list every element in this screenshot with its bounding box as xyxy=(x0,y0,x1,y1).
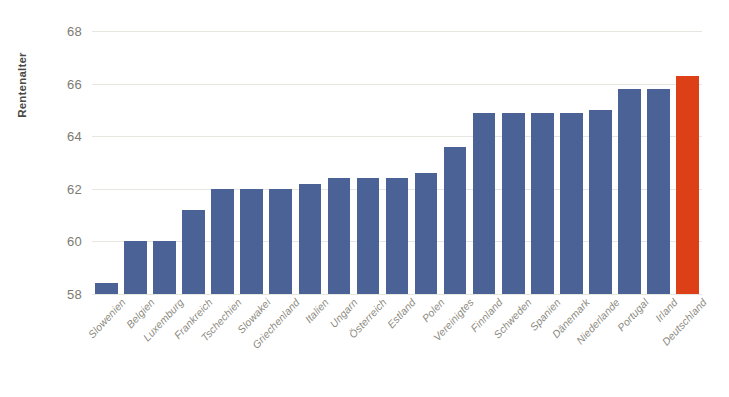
bar--sterreich[interactable] xyxy=(357,178,380,294)
bar-estland[interactable] xyxy=(386,178,409,294)
bar-ungarn[interactable] xyxy=(328,178,351,294)
bar-niederlande[interactable] xyxy=(589,110,612,294)
x-axis-category-labels: SlowenienBelgienLuxemburgFrankreichTsche… xyxy=(92,296,702,396)
rentenalter-bar-chart: Rentenalter 586062646668 SlowenienBelgie… xyxy=(0,0,729,397)
x-label-estland: Estland xyxy=(385,296,418,330)
bar-slowakei[interactable] xyxy=(240,189,263,294)
bar-finnland[interactable] xyxy=(473,113,496,294)
bars-layer xyxy=(92,31,702,294)
y-tick-label: 64 xyxy=(67,129,82,144)
bar-irland[interactable] xyxy=(647,89,670,294)
y-tick-label: 66 xyxy=(67,76,82,91)
bar-slowenien[interactable] xyxy=(95,283,118,294)
x-label-slowenien: Slowenien xyxy=(85,296,127,340)
bar-schweden[interactable] xyxy=(502,113,525,294)
bar-deutschland[interactable] xyxy=(676,76,699,294)
y-axis-title: Rentenalter xyxy=(16,15,36,155)
bar-belgien[interactable] xyxy=(124,241,147,294)
bar-frankreich[interactable] xyxy=(182,210,205,294)
bar-italien[interactable] xyxy=(299,184,322,294)
plot-area: 586062646668 xyxy=(92,31,702,294)
x-label-irland: Irland xyxy=(652,296,679,324)
gridline-58 xyxy=(92,294,702,295)
bar-griechenland[interactable] xyxy=(269,189,292,294)
bar-spanien[interactable] xyxy=(531,113,554,294)
y-tick-label: 62 xyxy=(67,181,82,196)
bar-polen[interactable] xyxy=(415,173,438,294)
bar-luxemburg[interactable] xyxy=(153,241,176,294)
y-tick-label: 58 xyxy=(67,287,82,302)
bar-d-nemark[interactable] xyxy=(560,113,583,294)
y-tick-label: 68 xyxy=(67,24,82,39)
bar-tschechien[interactable] xyxy=(211,189,234,294)
bar-portugal[interactable] xyxy=(618,89,641,294)
y-tick-label: 60 xyxy=(67,234,82,249)
bar-vereinigtes[interactable] xyxy=(444,147,467,294)
